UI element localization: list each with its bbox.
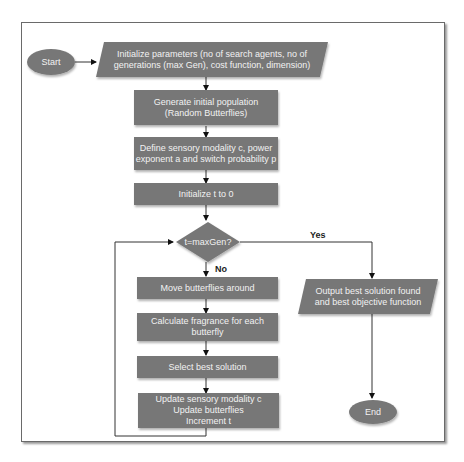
label-init-params: Initialize parameters (no of search agen… — [100, 42, 324, 77]
label-fragrance: Calculate fragrance for each butterfly — [137, 313, 278, 341]
label-end: End — [349, 404, 397, 420]
edge-label-yes: Yes — [310, 230, 326, 240]
label-update: Update sensory modality c Update butterf… — [138, 393, 279, 428]
edge-decision-yes — [240, 242, 372, 278]
label-init-t: Initialize t to 0 — [134, 183, 278, 205]
label-select-best: Select best solution — [137, 356, 278, 378]
label-start: Start — [27, 54, 75, 70]
label-define-modality: Define sensory modality c, power exponen… — [134, 137, 278, 170]
label-gen-pop: Generate initial population (Random Butt… — [134, 90, 278, 125]
label-decision: t=maxGen? — [176, 234, 240, 250]
edge-label-no: No — [215, 264, 227, 274]
label-move: Move butterflies around — [137, 277, 278, 299]
label-output: Output best solution found and best obje… — [302, 279, 434, 314]
